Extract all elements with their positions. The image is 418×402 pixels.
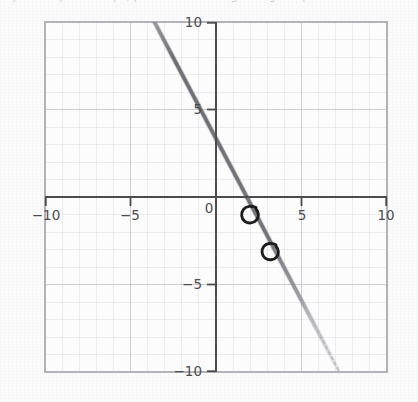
x-tick-label--5: −5 [120,207,140,223]
y-tick-label--10: −10 [174,363,203,379]
y-tick-label-5: 5 [193,101,202,117]
y-tick-label--5: −5 [182,276,202,292]
coordinate-plane-svg: −10 −5 0 5 10 10 5 −5 −10 [0,0,418,402]
x-tick-label-5: 5 [298,207,307,223]
x-tick-label-0: 0 [205,200,214,216]
coordinate-plane-figure: −10 −5 0 5 10 10 5 −5 −10 [0,0,418,402]
y-tick-label-10: 10 [185,14,202,30]
x-tick-label--10: −10 [32,207,61,223]
x-tick-label-10: 10 [377,207,394,223]
